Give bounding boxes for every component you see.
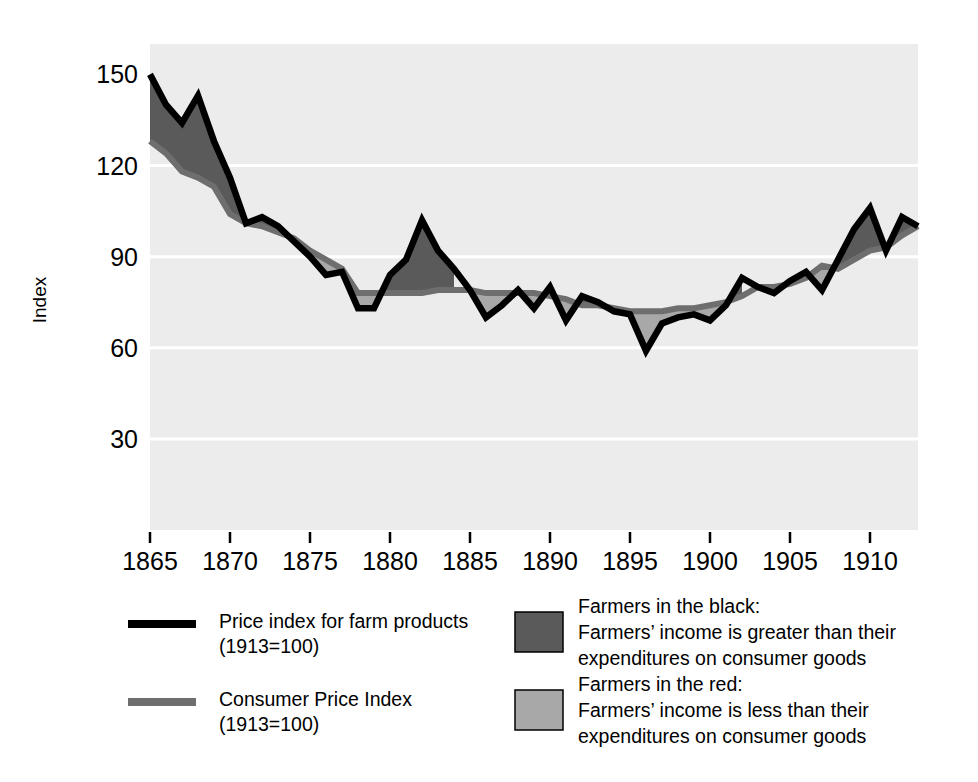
- legend-entry-farmers-in-the-red: Farmers in the red: Farmers’ income is l…: [515, 673, 869, 747]
- farm-price-index-chart: 306090120150 186518701875188018851890189…: [0, 0, 978, 782]
- x-tick-label-1910: 1910: [842, 547, 898, 575]
- legend-farm-label-line1: Price index for farm products: [219, 610, 469, 632]
- x-tick-label-1880: 1880: [362, 547, 418, 575]
- x-tick-label-1905: 1905: [762, 547, 818, 575]
- y-axis-tick-labels: 306090120150: [96, 60, 138, 453]
- legend-cpi-label-line2: (1913=100): [219, 713, 319, 735]
- gray-line-swatch: [128, 698, 196, 706]
- x-tick-label-1890: 1890: [522, 547, 578, 575]
- x-tick-label-1900: 1900: [682, 547, 738, 575]
- x-tick-label-1895: 1895: [602, 547, 658, 575]
- dark-gray-box-swatch: [515, 612, 563, 652]
- y-tick-label-60: 60: [110, 334, 138, 362]
- legend-black-line3: expenditures on consumer goods: [578, 647, 867, 669]
- legend-black-line2: Farmers’ income is greater than their: [578, 621, 896, 643]
- legend-black-line1: Farmers in the black:: [578, 595, 760, 617]
- legend-farm-label-line2: (1913=100): [219, 635, 319, 657]
- y-tick-label-120: 120: [96, 152, 138, 180]
- x-tick-label-1870: 1870: [202, 547, 258, 575]
- x-tick-label-1875: 1875: [282, 547, 338, 575]
- legend-red-line3: expenditures on consumer goods: [578, 725, 867, 747]
- y-tick-label-150: 150: [96, 60, 138, 88]
- black-line-swatch: [128, 620, 196, 628]
- y-axis-title: Index: [29, 276, 50, 323]
- legend-red-line2: Farmers’ income is less than their: [578, 699, 869, 721]
- legend-red-line1: Farmers in the red:: [578, 673, 743, 695]
- x-tick-label-1865: 1865: [122, 547, 178, 575]
- x-axis-ticks: 1865187018751880188518901895190019051910: [122, 532, 898, 575]
- plot-background: [150, 44, 918, 530]
- chart-figure: 306090120150 186518701875188018851890189…: [0, 0, 978, 782]
- y-tick-label-30: 30: [110, 425, 138, 453]
- y-tick-label-90: 90: [110, 243, 138, 271]
- x-tick-label-1885: 1885: [442, 547, 498, 575]
- light-gray-box-swatch: [515, 690, 563, 730]
- legend-entry-consumer-price-index: Consumer Price Index (1913=100): [128, 688, 412, 735]
- legend-entry-farmers-in-the-black: Farmers in the black: Farmers’ income is…: [515, 595, 896, 669]
- legend-entry-farm-price-index: Price index for farm products (1913=100): [128, 610, 469, 657]
- legend-cpi-label-line1: Consumer Price Index: [219, 688, 412, 710]
